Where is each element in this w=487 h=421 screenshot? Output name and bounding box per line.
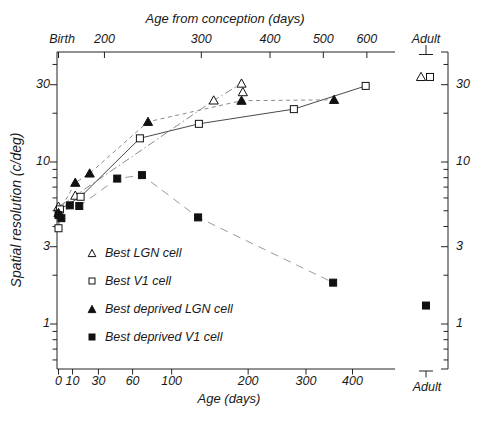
figure: Age from conception (days) Birth Adult A… [0, 0, 487, 421]
bottom-axis-tick-label: 300 [289, 374, 323, 388]
y-axis-tick-label-left: 30 [24, 77, 50, 91]
y-axis-tick-label-right: 10 [456, 154, 482, 168]
data-point-open-triangle [238, 88, 247, 96]
data-point-filled-square [66, 202, 73, 209]
adult-data-point-open-triangle [416, 72, 425, 80]
chart-area [0, 0, 487, 421]
data-point-filled-square [195, 214, 202, 221]
y-axis-tick-label-right: 30 [456, 77, 482, 91]
top-axis-tick-label: 300 [184, 32, 218, 46]
adult-data-point-filled-square [423, 302, 430, 309]
data-point-open-square [55, 225, 62, 232]
adult-label-top: Adult [404, 32, 448, 46]
legend-label: Best LGN cell [105, 246, 181, 260]
filled-square-icon [86, 331, 98, 343]
top-axis-title: Age from conception (days) [100, 12, 350, 27]
y-axis-tick-label-right: 1 [456, 316, 482, 330]
data-point-open-square [195, 120, 202, 127]
birth-label: Birth [40, 32, 84, 46]
top-axis-tick-label: 200 [87, 32, 121, 46]
series-line-2 [59, 100, 335, 213]
top-axis-tick-label: 500 [306, 32, 340, 46]
data-point-open-square [136, 135, 143, 142]
adult-data-point-open-square [427, 73, 434, 80]
data-point-filled-triangle [71, 178, 80, 186]
data-point-open-square [77, 193, 84, 200]
bottom-axis-tick-label: 60 [116, 374, 150, 388]
legend: Best LGN cell Best V1 cell Best deprived… [86, 239, 233, 351]
bottom-axis-tick-label: 400 [336, 374, 370, 388]
data-point-open-square [362, 82, 369, 89]
legend-item-best-deprived-lgn: Best deprived LGN cell [86, 295, 233, 323]
data-point-filled-square [58, 215, 65, 222]
data-point-filled-square [330, 279, 337, 286]
y-axis-tick-label-left: 10 [24, 154, 50, 168]
legend-label: Best deprived LGN cell [105, 302, 233, 316]
bottom-axis-title: Age (days) [164, 392, 294, 407]
data-point-filled-square [114, 175, 121, 182]
legend-item-best-lgn: Best LGN cell [86, 239, 233, 267]
data-point-filled-triangle [143, 117, 152, 125]
data-point-open-triangle [209, 96, 218, 104]
top-axis-tick-label: 400 [253, 32, 287, 46]
y-axis-tick-label-right: 3 [456, 239, 482, 253]
data-point-open-triangle [237, 79, 246, 87]
top-axis-tick-label: 600 [350, 32, 384, 46]
legend-item-best-deprived-v1: Best deprived V1 cell [86, 323, 233, 351]
bottom-axis-tick-label: 100 [155, 374, 189, 388]
bottom-axis-tick-label: 200 [231, 374, 265, 388]
adult-label-bottom: Adult [405, 380, 449, 394]
y-axis-title: Spatial resolution (c/deg) [8, 133, 24, 288]
data-point-filled-square [138, 172, 145, 179]
bottom-axis-tick-label: 30 [81, 374, 115, 388]
legend-label: Best V1 cell [105, 274, 171, 288]
filled-triangle-icon [86, 303, 98, 315]
y-axis-tick-label-left: 1 [24, 316, 50, 330]
open-triangle-icon [86, 247, 98, 259]
data-point-filled-triangle [329, 95, 338, 103]
open-square-icon [86, 275, 98, 287]
legend-item-best-v1: Best V1 cell [86, 267, 233, 295]
y-axis-tick-label-left: 3 [24, 239, 50, 253]
data-point-filled-square [76, 203, 83, 210]
legend-label: Best deprived V1 cell [105, 330, 222, 344]
data-point-open-square [290, 106, 297, 113]
